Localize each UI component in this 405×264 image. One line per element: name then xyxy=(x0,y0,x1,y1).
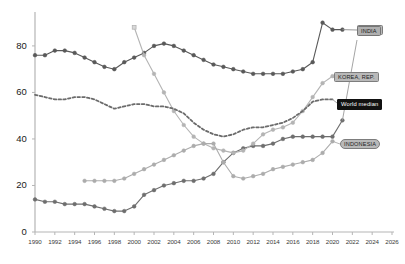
callout-leader-lines xyxy=(333,30,358,144)
series-point-marker xyxy=(33,198,37,202)
series-point-marker xyxy=(251,72,255,76)
series-point-marker xyxy=(281,165,285,169)
y-tick-label: 20 xyxy=(5,179,27,190)
axis-lines xyxy=(35,12,394,232)
series-point-marker xyxy=(172,153,176,157)
series-point-marker xyxy=(251,174,255,178)
series-point-marker xyxy=(152,72,156,76)
series-point-marker xyxy=(83,56,87,60)
series-point-marker xyxy=(261,72,265,76)
series-line xyxy=(35,95,333,137)
series-point-marker xyxy=(192,144,196,148)
series-point-marker xyxy=(321,151,325,155)
series-point-marker xyxy=(83,179,87,183)
series-point-marker xyxy=(33,53,37,57)
series-point-marker xyxy=(162,184,166,188)
line-chart-plot xyxy=(0,0,405,264)
series-point-marker xyxy=(261,144,265,148)
series-point-marker xyxy=(281,125,285,129)
series-point-marker xyxy=(212,63,216,67)
series-point-marker xyxy=(112,67,116,71)
series-point-marker xyxy=(301,135,305,139)
series-point-marker xyxy=(43,53,47,57)
y-tick-label: 60 xyxy=(5,86,27,97)
series-point-marker xyxy=(93,205,97,209)
y-tick-label: 80 xyxy=(5,40,27,51)
series-point-marker xyxy=(112,209,116,213)
series-point-marker xyxy=(93,60,97,64)
series-point-marker xyxy=(152,188,156,192)
series-point-marker xyxy=(311,95,315,99)
series-point-marker xyxy=(321,81,325,85)
indonesia-callout-label[interactable]: INDONESIA xyxy=(340,139,380,149)
series-point-marker xyxy=(291,135,295,139)
series-point-marker xyxy=(172,181,176,185)
series-point-marker xyxy=(271,142,275,146)
series-point-marker xyxy=(83,202,87,206)
series-point-marker xyxy=(271,167,275,171)
series-line xyxy=(35,23,342,74)
series-point-marker xyxy=(63,202,67,206)
series-point-marker xyxy=(311,135,315,139)
series-line xyxy=(35,120,342,211)
series-point-marker xyxy=(132,205,136,209)
series-point-marker xyxy=(122,60,126,64)
series-point-marker xyxy=(122,177,126,181)
series-point-marker xyxy=(212,142,216,146)
data-series-layer xyxy=(33,21,344,213)
series-point-marker xyxy=(182,149,186,153)
series-point-marker xyxy=(162,91,166,95)
series-point-marker xyxy=(311,158,315,162)
series-point-marker xyxy=(53,200,57,204)
india-callout-label[interactable]: INDIA xyxy=(357,26,381,36)
world-median-callout-label[interactable]: World median xyxy=(337,99,382,110)
series-point-marker xyxy=(103,65,107,69)
series-point-marker xyxy=(291,121,295,125)
series-point-marker xyxy=(321,21,325,25)
series-point-marker xyxy=(182,49,186,53)
series-point-marker xyxy=(162,42,166,46)
series-point-marker xyxy=(271,72,275,76)
series-point-marker xyxy=(261,132,265,136)
series-point-marker xyxy=(93,179,97,183)
series-point-marker xyxy=(251,142,255,146)
series-start-marker xyxy=(132,25,136,29)
series-point-marker xyxy=(73,51,77,55)
series-point-marker xyxy=(321,135,325,139)
series-point-marker xyxy=(291,70,295,74)
series-point-marker xyxy=(231,151,235,155)
series-point-marker xyxy=(311,60,315,64)
series-point-marker xyxy=(63,49,67,53)
series-point-marker xyxy=(152,44,156,48)
series-point-marker xyxy=(261,172,265,176)
series-point-marker xyxy=(132,56,136,60)
series-point-marker xyxy=(241,70,245,74)
series-point-marker xyxy=(222,160,226,164)
y-tick-label: 40 xyxy=(5,133,27,144)
series-point-marker xyxy=(142,53,146,57)
series-point-marker xyxy=(103,207,107,211)
x-tick-label: 2026 xyxy=(380,238,404,245)
series-point-marker xyxy=(172,44,176,48)
series-point-marker xyxy=(182,123,186,127)
series-point-marker xyxy=(182,179,186,183)
series-point-marker xyxy=(291,163,295,167)
series-point-marker xyxy=(142,193,146,197)
series-point-marker xyxy=(132,172,136,176)
series-point-marker xyxy=(231,67,235,71)
y-tick-label: 0 xyxy=(5,226,27,237)
series-point-marker xyxy=(192,53,196,57)
korea-callout-label[interactable]: KOREA, REP. xyxy=(334,72,379,82)
series-point-marker xyxy=(162,158,166,162)
series-line xyxy=(85,141,333,181)
series-point-marker xyxy=(112,179,116,183)
series-point-marker xyxy=(202,177,206,181)
series-point-marker xyxy=(241,149,245,153)
series-point-marker xyxy=(192,179,196,183)
series-point-marker xyxy=(53,49,57,53)
series-point-marker xyxy=(271,128,275,132)
series-point-marker xyxy=(281,72,285,76)
series-point-marker xyxy=(281,137,285,141)
china-india-callout-group: CHINA INDIA xyxy=(357,25,381,36)
series-point-marker xyxy=(241,177,245,181)
